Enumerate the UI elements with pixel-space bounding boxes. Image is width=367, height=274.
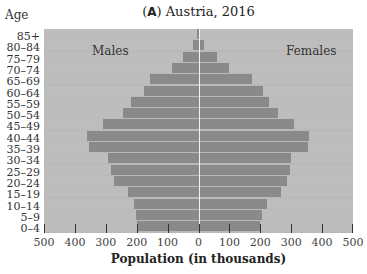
x-tick xyxy=(291,224,292,233)
age-label: 65–69 xyxy=(7,76,41,87)
female-bar xyxy=(200,74,252,84)
male-bar xyxy=(128,187,199,197)
female-bar xyxy=(200,131,309,141)
chart-title: (A) Austria, 2016 xyxy=(0,4,367,19)
age-label: 80–84 xyxy=(7,42,41,53)
female-bar xyxy=(200,108,278,118)
male-bar xyxy=(131,97,199,107)
female-bar xyxy=(200,142,308,152)
x-tick-label: 300 xyxy=(95,236,116,249)
female-bar xyxy=(200,40,204,50)
x-tick-label: 200 xyxy=(126,236,147,249)
x-tick xyxy=(106,224,107,233)
female-bar xyxy=(200,153,291,163)
male-bar xyxy=(144,86,199,96)
female-bar xyxy=(200,97,269,107)
female-bar xyxy=(200,63,229,73)
age-label: 10–14 xyxy=(7,201,41,212)
x-tick xyxy=(260,224,261,233)
male-bar xyxy=(150,74,199,84)
male-bar xyxy=(136,210,199,220)
x-tick xyxy=(229,224,230,233)
x-tick xyxy=(322,224,323,233)
x-tick xyxy=(44,224,45,233)
male-bar xyxy=(111,165,199,175)
female-bar xyxy=(200,86,263,96)
x-axis-label: Population (in thousands) xyxy=(0,252,367,266)
male-bar xyxy=(103,119,199,129)
x-tick-label: 500 xyxy=(343,236,364,249)
x-tick xyxy=(352,224,353,233)
x-tick-label: 0 xyxy=(195,236,202,249)
female-bar xyxy=(200,119,294,129)
x-tick-label: 300 xyxy=(281,236,302,249)
age-label: 60–64 xyxy=(7,88,41,99)
female-bar xyxy=(200,176,287,186)
females-label: Females xyxy=(286,44,336,58)
x-tick-label: 100 xyxy=(157,236,178,249)
female-bar xyxy=(200,210,262,220)
x-tick xyxy=(137,224,138,233)
x-tick xyxy=(75,224,76,233)
female-bar xyxy=(200,199,267,209)
males-label: Males xyxy=(92,44,129,58)
male-bar xyxy=(87,131,199,141)
x-tick-label: 400 xyxy=(312,236,333,249)
male-bar xyxy=(89,142,199,152)
x-tick-label: 100 xyxy=(219,236,240,249)
zero-line xyxy=(199,29,200,233)
female-bar xyxy=(200,165,290,175)
female-bar xyxy=(200,52,217,62)
x-tick-label: 500 xyxy=(34,236,55,249)
age-label: 0–4 xyxy=(21,223,41,234)
female-bar xyxy=(200,187,281,197)
x-tick-label: 200 xyxy=(250,236,271,249)
male-bar xyxy=(123,108,199,118)
x-tick xyxy=(168,224,169,233)
age-label: 25–29 xyxy=(7,167,41,178)
male-bar xyxy=(172,63,199,73)
male-bar xyxy=(134,199,199,209)
x-tick-label: 400 xyxy=(64,236,85,249)
male-bar xyxy=(183,52,199,62)
male-bar xyxy=(108,153,199,163)
male-bar xyxy=(114,176,199,186)
age-label: 15–19 xyxy=(7,189,41,200)
x-tick xyxy=(199,224,200,233)
age-label: 75–79 xyxy=(7,54,41,65)
pyramid-plot xyxy=(44,29,353,233)
age-label: 45–49 xyxy=(7,121,41,132)
age-label: 30–34 xyxy=(7,155,41,166)
